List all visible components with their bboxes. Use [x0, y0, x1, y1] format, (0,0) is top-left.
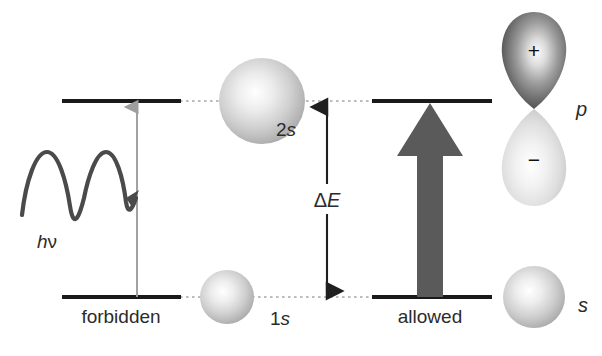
s-orbital-label: s	[578, 294, 588, 316]
p-orbital-minus-sign: −	[528, 148, 540, 171]
level-label-2s: 2s	[276, 119, 297, 140]
forbidden-label: forbidden	[81, 306, 160, 327]
allowed-transition-arrow	[397, 103, 463, 297]
allowed-label: allowed	[398, 306, 462, 327]
p-orbital-plus-sign: +	[528, 39, 540, 62]
orbital-sphere-s	[503, 266, 565, 328]
energy-level-diagram: hν forbidden 2s 1s ΔE allowed +	[0, 0, 602, 356]
level-label-1s: 1s	[270, 308, 291, 329]
photon-wave-icon	[22, 152, 139, 219]
orbital-sphere-1s	[200, 270, 254, 324]
photon-energy-label: hν	[37, 231, 57, 252]
orbital-p: + −	[502, 12, 566, 206]
energy-gap-label: ΔE	[314, 189, 341, 211]
p-orbital-label: p	[575, 98, 587, 120]
